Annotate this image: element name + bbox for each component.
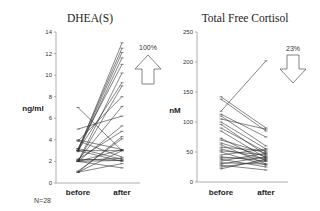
y-ticks: 050100150200250 <box>183 29 197 185</box>
y-tick-label: 4 <box>49 137 53 143</box>
series-lines <box>220 61 268 170</box>
cortisol-chart: Total Free Cortisol 050100150200250 nM b… <box>169 12 306 197</box>
x-label-before: before <box>209 188 234 197</box>
figure: DHEA(S) 02468101214 ng/ml before after 1… <box>0 0 320 211</box>
percent-annotation: 100% <box>139 44 157 51</box>
y-tick-label: 50 <box>186 149 193 155</box>
x-label-before: before <box>66 188 91 197</box>
subject-line <box>221 97 266 128</box>
subject-line <box>221 114 266 137</box>
subject-line <box>78 116 122 129</box>
down-arrow-icon <box>280 55 306 83</box>
chart-title: Total Free Cortisol <box>202 12 289 24</box>
subject-line <box>78 83 122 151</box>
y-tick-label: 100 <box>183 119 194 125</box>
y-axis-label: nM <box>169 106 181 115</box>
subject-line <box>221 119 266 129</box>
y-tick-label: 250 <box>183 29 194 35</box>
y-tick-label: 200 <box>183 59 194 65</box>
y-tick-label: 6 <box>49 115 53 121</box>
y-tick-label: 8 <box>49 94 53 100</box>
y-ticks: 02468101214 <box>45 29 56 186</box>
dhea-chart: DHEA(S) 02468101214 ng/ml before after 1… <box>22 12 161 204</box>
x-label-after: after <box>257 188 274 197</box>
up-arrow-icon <box>135 55 161 84</box>
subject-line <box>78 64 122 148</box>
subject-line <box>78 108 122 151</box>
y-tick-label: 2 <box>49 158 53 164</box>
sample-size-label: N=28 <box>34 197 51 204</box>
y-tick-label: 12 <box>45 51 52 57</box>
y-tick-label: 14 <box>45 29 52 35</box>
y-tick-label: 0 <box>190 179 194 185</box>
x-label-after: after <box>113 188 130 197</box>
percent-annotation: 23% <box>286 45 300 52</box>
subject-line <box>78 97 122 141</box>
subject-line <box>221 128 266 152</box>
chart-title: DHEA(S) <box>67 12 113 25</box>
y-tick-label: 150 <box>183 89 194 95</box>
subject-line <box>78 58 122 152</box>
y-tick-label: 10 <box>45 72 52 78</box>
series-lines <box>77 43 124 172</box>
y-axis-label: ng/ml <box>22 104 43 113</box>
y-tick-label: 0 <box>49 180 53 186</box>
